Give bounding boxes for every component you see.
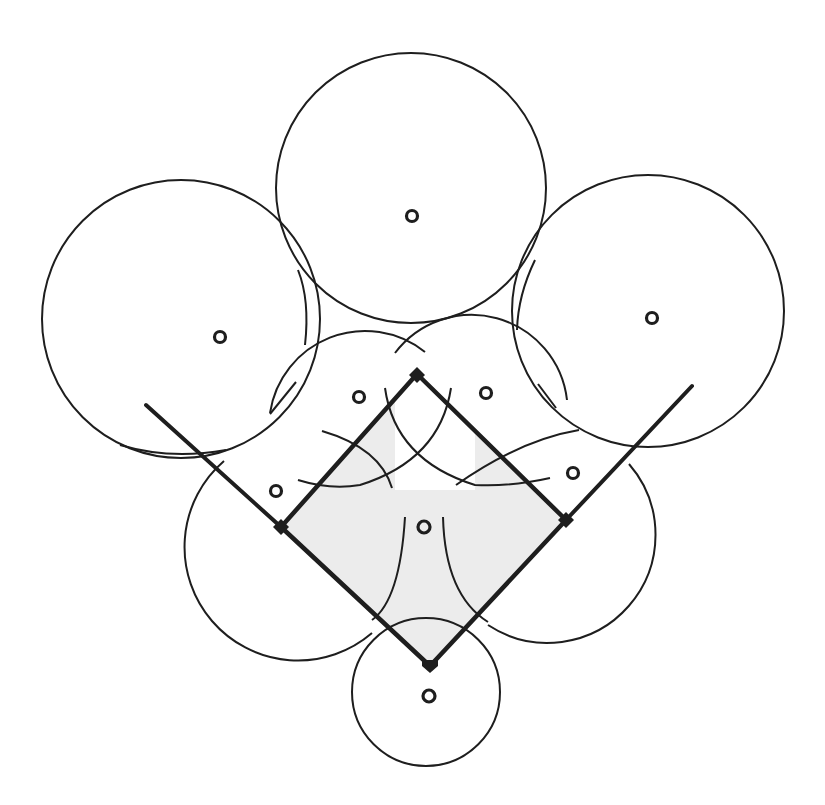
shortstop-marker (354, 392, 365, 403)
left-field-lower-arc (120, 445, 226, 454)
home-plate-marker (422, 660, 438, 673)
left-foul-line (146, 405, 281, 527)
right-field-inner-arc (517, 260, 535, 330)
baseball-field-diagram (0, 0, 825, 805)
catcher-marker (423, 690, 435, 702)
first-baseman-marker (568, 468, 579, 479)
right-field-coverage-circle (512, 175, 784, 447)
third-baseman-marker (271, 486, 282, 497)
center-fielder-marker (407, 211, 418, 222)
right-foul-line (566, 386, 692, 520)
center-field-coverage-circle (276, 53, 546, 323)
second-baseman-marker (481, 388, 492, 399)
right-fielder-marker (647, 313, 658, 324)
left-field-inner-arc (298, 270, 306, 345)
left-fielder-marker (215, 332, 226, 343)
left-field-coverage-circle (42, 180, 320, 458)
